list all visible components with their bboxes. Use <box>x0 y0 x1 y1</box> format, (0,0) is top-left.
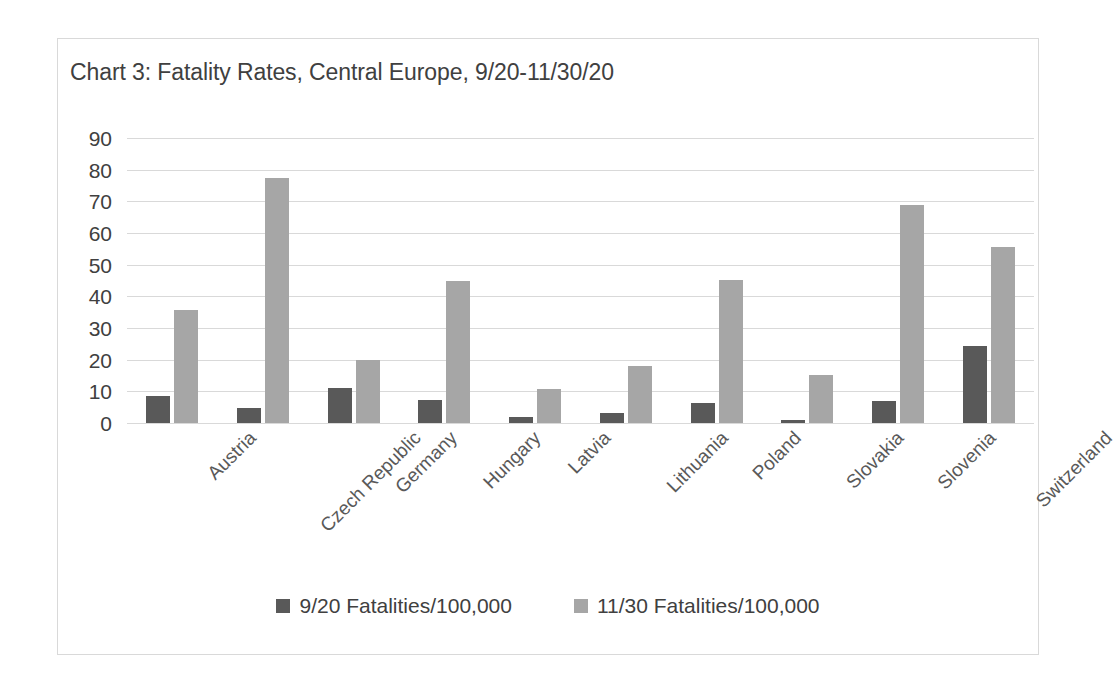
y-axis-tick-label: 30 <box>89 318 112 339</box>
chart-legend: 9/20 Fatalities/100,00011/30 Fatalities/… <box>58 594 1038 618</box>
chart-title: Chart 3: Fatality Rates, Central Europe,… <box>70 59 614 86</box>
x-axis-tick-label: Poland <box>748 427 805 484</box>
bar[interactable] <box>900 205 924 424</box>
x-axis: AustriaCzech RepublicGermanyHungaryLatvi… <box>127 427 1034 567</box>
bar-group <box>671 138 762 423</box>
bar-group <box>762 138 853 423</box>
gridline <box>127 423 1034 424</box>
bar[interactable] <box>719 280 743 423</box>
bar[interactable] <box>600 413 624 423</box>
y-axis-tick-label: 60 <box>89 223 112 244</box>
bar[interactable] <box>537 389 561 423</box>
bar[interactable] <box>446 281 470 424</box>
x-axis-tick-label: Latvia <box>564 427 615 478</box>
chart-container: Chart 3: Fatality Rates, Central Europe,… <box>57 38 1039 655</box>
bar-group <box>581 138 672 423</box>
y-axis-tick-label: 90 <box>89 128 112 149</box>
bar-group <box>943 138 1034 423</box>
x-axis-tick-label: Hungary <box>479 427 545 493</box>
y-axis-tick-label: 70 <box>89 191 112 212</box>
y-axis-tick-label: 80 <box>89 159 112 180</box>
bar[interactable] <box>146 396 170 423</box>
bar[interactable] <box>963 346 987 423</box>
plot-area <box>127 138 1034 423</box>
bar[interactable] <box>991 247 1015 423</box>
bar-group <box>399 138 490 423</box>
y-axis-tick-label: 50 <box>89 254 112 275</box>
y-axis-tick-label: 10 <box>89 381 112 402</box>
x-axis-tick-label: Lithuania <box>662 427 732 497</box>
x-axis-tick-label: Slovakia <box>842 427 908 493</box>
legend-item[interactable]: 11/30 Fatalities/100,000 <box>574 594 820 618</box>
x-axis-tick-label: Slovenia <box>933 427 1000 494</box>
bar[interactable] <box>781 420 805 423</box>
bar-group <box>853 138 944 423</box>
bar[interactable] <box>872 401 896 423</box>
y-axis-tick-label: 0 <box>100 413 112 434</box>
bar[interactable] <box>418 400 442 423</box>
bar-group <box>218 138 309 423</box>
bar[interactable] <box>628 366 652 423</box>
y-axis-tick-label: 20 <box>89 349 112 370</box>
bar[interactable] <box>809 375 833 423</box>
bar-group <box>127 138 218 423</box>
bar[interactable] <box>691 403 715 423</box>
bar-group <box>308 138 399 423</box>
legend-swatch-icon <box>574 599 588 613</box>
legend-label: 9/20 Fatalities/100,000 <box>299 594 511 618</box>
y-axis: 0102030405060708090 <box>58 138 120 423</box>
bar[interactable] <box>509 417 533 423</box>
bar[interactable] <box>174 310 198 423</box>
x-axis-tick-label: Austria <box>204 427 261 484</box>
x-axis-tick-label: Switzerland <box>1031 427 1116 512</box>
bar[interactable] <box>356 360 380 423</box>
legend-label: 11/30 Fatalities/100,000 <box>597 594 820 618</box>
bar[interactable] <box>237 408 261 423</box>
bar[interactable] <box>265 178 289 423</box>
legend-item[interactable]: 9/20 Fatalities/100,000 <box>276 594 511 618</box>
y-axis-tick-label: 40 <box>89 286 112 307</box>
legend-swatch-icon <box>276 599 290 613</box>
bar-group <box>490 138 581 423</box>
bar[interactable] <box>328 388 352 423</box>
